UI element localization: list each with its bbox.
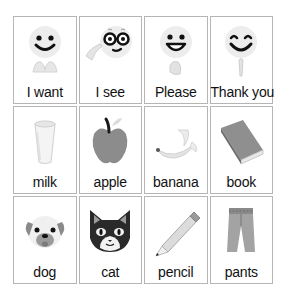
card-please[interactable]: Please bbox=[144, 16, 208, 104]
milk-icon bbox=[17, 112, 73, 168]
card-milk[interactable]: milk bbox=[13, 106, 77, 194]
card-label: I want bbox=[14, 84, 76, 100]
apple-icon bbox=[82, 112, 138, 168]
thank-you-icon bbox=[213, 22, 269, 78]
card-label: dog bbox=[14, 264, 76, 280]
card-cat[interactable]: cat bbox=[79, 196, 143, 284]
card-pencil[interactable]: pencil bbox=[144, 196, 208, 284]
card-dog[interactable]: dog bbox=[13, 196, 77, 284]
i-want-icon bbox=[17, 22, 73, 78]
card-i-see[interactable]: I see bbox=[79, 16, 143, 104]
card-thank-you[interactable]: Thank you bbox=[210, 16, 274, 104]
dog-icon bbox=[17, 202, 73, 258]
card-label: book bbox=[211, 174, 273, 190]
card-label: apple bbox=[80, 174, 142, 190]
card-label: pencil bbox=[145, 264, 207, 280]
card-apple[interactable]: apple bbox=[79, 106, 143, 194]
card-label: cat bbox=[80, 264, 142, 280]
please-icon bbox=[148, 22, 204, 78]
card-label: Please bbox=[145, 84, 207, 100]
i-see-icon bbox=[82, 22, 138, 78]
banana-icon bbox=[148, 112, 204, 168]
pants-icon bbox=[213, 202, 269, 258]
card-label: milk bbox=[14, 174, 76, 190]
book-icon bbox=[213, 112, 269, 168]
card-label: banana bbox=[145, 174, 207, 190]
card-label: Thank you bbox=[211, 84, 273, 100]
card-banana[interactable]: banana bbox=[144, 106, 208, 194]
card-i-want[interactable]: I want bbox=[13, 16, 77, 104]
communication-board: I want I see bbox=[13, 16, 273, 284]
card-pants[interactable]: pants bbox=[210, 196, 274, 284]
card-label: pants bbox=[211, 264, 273, 280]
card-label: I see bbox=[80, 84, 142, 100]
card-book[interactable]: book bbox=[210, 106, 274, 194]
cat-icon bbox=[82, 202, 138, 258]
pencil-icon bbox=[148, 202, 204, 258]
